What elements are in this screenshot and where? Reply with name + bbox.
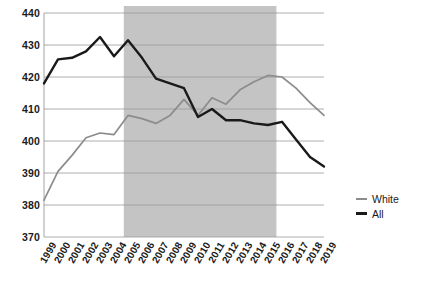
legend-swatch-icon — [356, 198, 367, 200]
chart-legend: WhiteAll — [356, 192, 420, 222]
legend-swatch-icon — [356, 212, 367, 215]
y-tick-label: 410 — [2, 104, 40, 114]
legend-item-white[interactable]: White — [356, 192, 420, 205]
y-axis-tick-labels: 370380390400410420430440 — [0, 13, 40, 237]
y-tick-label: 430 — [2, 40, 40, 50]
y-tick-label: 390 — [2, 168, 40, 178]
plot-area — [44, 13, 324, 237]
shaded-band-rect — [124, 6, 277, 237]
y-tick-label: 440 — [2, 8, 40, 18]
y-tick-label: 370 — [2, 232, 40, 242]
y-tick-label: 420 — [2, 72, 40, 82]
y-tick-label: 400 — [2, 136, 40, 146]
legend-item-label: White — [372, 193, 399, 205]
legend-item-label: All — [372, 208, 384, 220]
legend-item-all[interactable]: All — [356, 207, 420, 220]
line-chart: 370380390400410420430440 199920002001200… — [0, 0, 423, 286]
y-tick-label: 380 — [2, 200, 40, 210]
x-axis-tick-labels: 1999200020012002200320042005200620072008… — [44, 237, 334, 286]
shaded-recession-band — [124, 6, 277, 237]
plot-svg — [44, 13, 324, 237]
